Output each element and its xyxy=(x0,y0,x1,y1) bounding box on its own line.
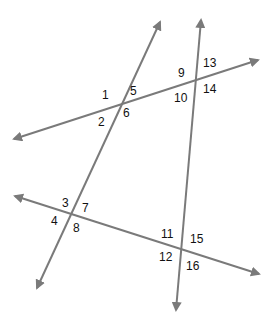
angle-label: 16 xyxy=(186,260,199,272)
angle-label: 11 xyxy=(161,228,173,240)
angle-label: 15 xyxy=(190,233,203,245)
angle-label: 7 xyxy=(82,202,89,214)
diagram-canvas xyxy=(0,0,276,325)
angle-label: 1 xyxy=(102,89,109,101)
angle-label: 3 xyxy=(62,197,69,209)
angle-label: 14 xyxy=(203,83,216,95)
angle-label: 13 xyxy=(203,57,216,69)
angle-label: 12 xyxy=(159,251,172,263)
line-bottom xyxy=(15,196,259,274)
angle-label: 4 xyxy=(51,215,58,227)
line-a xyxy=(37,22,160,288)
angle-label: 2 xyxy=(98,116,105,128)
angle-label: 5 xyxy=(130,85,137,97)
angle-label: 6 xyxy=(123,107,130,119)
angle-label: 10 xyxy=(174,92,187,104)
angle-label: 8 xyxy=(73,222,80,234)
angle-label: 9 xyxy=(178,67,185,79)
